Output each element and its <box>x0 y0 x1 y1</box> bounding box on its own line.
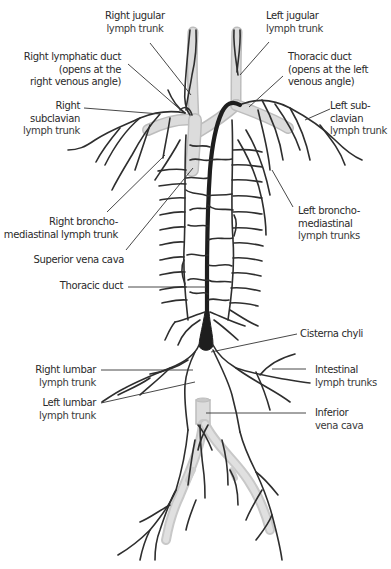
label-right-jugular-lymph-trunk: Right jugular lymph trunk <box>105 10 165 35</box>
label-superior-vena-cava: Superior vena cava <box>33 254 124 267</box>
cisterna-chyli-shape <box>199 312 213 350</box>
label-right-lumbar-lymph-trunk: Right lumbar lymph trunk <box>35 364 96 389</box>
label-right-lymphatic-duct: Right lymphatic duct (opens at the right… <box>24 51 121 89</box>
leader-right-subclavian <box>84 108 160 114</box>
leader-right-lymphatic-duct <box>128 64 183 112</box>
leader-left-jugular <box>240 42 269 75</box>
label-right-subclavian-lymph-trunk: Right subclavian lymph trunk <box>23 100 80 138</box>
leader-superior-vena-cava <box>126 168 193 250</box>
label-left-lumbar-lymph-trunk: Left lumbar lymph trunk <box>39 397 96 422</box>
leader-left-lumbar <box>101 382 195 403</box>
leader-left-subclavian <box>305 109 330 120</box>
label-thoracic-duct-top: Thoracic duct (opens at the left venous … <box>288 51 368 89</box>
label-thoracic-duct-mid: Thoracic duct <box>60 280 123 293</box>
leader-cisterna-chyli <box>211 334 297 352</box>
label-left-jugular-lymph-trunk: Left jugular lymph trunk <box>266 10 323 35</box>
leader-right-jugular <box>150 43 191 95</box>
lymph-vessels <box>68 30 362 560</box>
label-left-subclavian-lymph-trunk: Left sub- clavian lymph trunk <box>330 100 387 138</box>
label-right-bronchomediastinal-lymph-trunk: Right broncho- mediastinal lymph trunk <box>4 216 118 241</box>
leader-left-bronchomediastinal <box>272 170 293 207</box>
label-inferior-vena-cava: Inferior vena cava <box>315 407 363 432</box>
label-left-bronchomediastinal-lymph-trunks: Left broncho- mediastinal lymph trunks <box>298 205 360 243</box>
label-cisterna-chyli: Cisterna chyli <box>300 328 363 341</box>
label-intestinal-lymph-trunks: Intestinal lymph trunks <box>315 364 377 389</box>
